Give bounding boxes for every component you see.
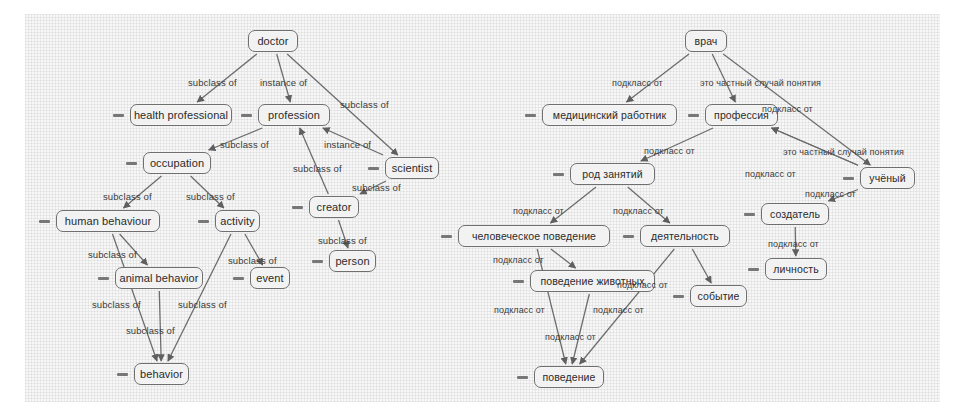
edge-label-uchenyy-to-sozdatel: подкласс от [805, 190, 856, 199]
edge-label-professiya-to-rod_zanyatiy: подкласс от [644, 147, 695, 156]
edge-label-chelovecheskoe_povedenie-to-povedenie: подкласс от [494, 306, 545, 315]
graph-node-lichnost[interactable]: личность [765, 258, 827, 280]
node-collapse-dash[interactable] [241, 114, 252, 117]
graph-node-povedenie[interactable]: поведение [534, 366, 604, 388]
graph-node-scientist[interactable]: scientist [385, 157, 439, 179]
graph-node-human_behaviour[interactable]: human behaviour [56, 210, 160, 232]
edge-label-human_behaviour-to-animal_behavior: subclass of [88, 250, 137, 260]
graph-node-person[interactable]: person [329, 250, 376, 272]
graph-node-uchenyy[interactable]: учёный [860, 167, 915, 189]
node-collapse-dash[interactable] [312, 260, 323, 263]
graph-node-sozdatel[interactable]: создатель [761, 203, 829, 225]
node-collapse-dash[interactable] [513, 280, 524, 283]
edge-label-occupation-to-activity: subclass of [186, 192, 235, 202]
graph-node-health_professional[interactable]: health professional [130, 104, 232, 126]
edge-label-doctor-to-scientist: subclass of [340, 100, 389, 110]
edge-label-activity-to-behavior: subclass of [126, 326, 175, 336]
edge-activity-to-behavior [168, 234, 231, 361]
edge-label-povedenie_zhivotnyh-to-povedenie: подкласс от [593, 306, 644, 315]
edge-label-activity-to-event: subclass of [228, 256, 277, 266]
graph-node-occupation[interactable]: occupation [143, 152, 211, 174]
node-collapse-dash[interactable] [117, 373, 128, 376]
graph-node-profession[interactable]: profession [258, 104, 330, 126]
graph-node-doctor[interactable]: doctor [248, 30, 298, 52]
graph-node-activity[interactable]: activity [215, 210, 260, 232]
edge-chelovecheskoe_povedenie-to-povedenie_zhivotnyh [551, 249, 576, 268]
edge-label-scientist-to-creator: subclass of [352, 183, 401, 193]
edge-label-doctor-to-profession: instance of [260, 78, 307, 88]
edge-label-human_behaviour-to-behavior: subclass of [92, 300, 141, 310]
edge-professiya-to-rod_zanyatiy [641, 128, 713, 161]
node-collapse-dash[interactable] [688, 114, 699, 117]
edge-deyatelnost-to-sobytie [692, 249, 711, 283]
graph-node-vrach[interactable]: врач [685, 30, 727, 52]
node-collapse-dash[interactable] [553, 173, 564, 176]
edge-label-deyatelnost-to-povedenie: подкласс от [545, 333, 596, 342]
edge-label-chelovecheskoe_povedenie-to-povedenie_zhivotnyh: подкласс от [493, 256, 544, 265]
node-collapse-dash[interactable] [39, 220, 50, 223]
edge-label-rod_zanyatiy-to-deyatelnost: подкласс от [613, 207, 664, 216]
edge-rod_zanyatiy-to-chelovecheskoe_povedenie [551, 187, 597, 223]
edge-creator-to-profession [300, 128, 329, 194]
node-collapse-dash[interactable] [744, 213, 755, 216]
graph-node-deyatelnost[interactable]: деятельность [640, 225, 730, 247]
edge-label-vrach-to-medrabotnik: подкласс от [612, 79, 663, 88]
edge-label-uchenyy-to-professiya: подкласс от [745, 170, 796, 179]
graph-node-event[interactable]: event [250, 267, 290, 289]
node-collapse-dash[interactable] [292, 206, 303, 209]
edge-label-creator-to-profession: subclass of [293, 164, 342, 174]
edge-label-rod_zanyatiy-to-chelovecheskoe_povedenie: подкласс от [513, 207, 564, 216]
edge-label-sozdatel-to-lichnost: подкласс от [768, 240, 819, 249]
node-collapse-dash[interactable] [98, 277, 109, 280]
node-collapse-dash[interactable] [748, 268, 759, 271]
edge-label-profession-to-occupation: subclass of [220, 140, 269, 150]
edge-povedenie_zhivotnyh-to-povedenie [572, 294, 589, 364]
graph-node-chelovecheskoe_povedenie[interactable]: человеческое поведение [458, 225, 610, 247]
node-collapse-dash[interactable] [126, 162, 137, 165]
edge-label-creator-to-person: subclass of [318, 236, 367, 246]
node-collapse-dash[interactable] [517, 376, 528, 379]
graph-node-medrabotnik[interactable]: медицинский работник [542, 104, 677, 126]
node-collapse-dash[interactable] [368, 167, 379, 170]
edge-label-vrach-to-professiya: это частный случай понятия [700, 79, 821, 88]
edge-label-doctor-to-health_professional: subclass of [188, 78, 237, 88]
edge-label-scientist-to-profession: instance of [324, 140, 371, 150]
node-collapse-dash[interactable] [441, 235, 452, 238]
node-collapse-dash[interactable] [198, 220, 209, 223]
edge-label-uchenyy-to-professiya: это частный случай понятия [783, 148, 904, 157]
node-collapse-dash[interactable] [673, 295, 684, 298]
graph-node-animal_behavior[interactable]: animal behavior [115, 267, 203, 289]
graph-node-behavior[interactable]: behavior [134, 363, 189, 385]
node-collapse-dash[interactable] [113, 114, 124, 117]
node-collapse-dash[interactable] [233, 277, 244, 280]
graph-node-rod_zanyatiy[interactable]: род занятий [570, 163, 655, 185]
node-collapse-dash[interactable] [525, 114, 536, 117]
edge-label-animal_behavior-to-behavior: subclass of [178, 300, 227, 310]
edge-rod_zanyatiy-to-deyatelnost [628, 187, 670, 223]
edge-label-occupation-to-human_behaviour: subclass of [103, 192, 152, 202]
node-collapse-dash[interactable] [843, 177, 854, 180]
edge-label-deyatelnost-to-sobytie: подкласс от [617, 281, 668, 290]
node-collapse-dash[interactable] [623, 235, 634, 238]
graph-node-sobytie[interactable]: событие [690, 285, 747, 307]
graph-node-creator[interactable]: creator [309, 196, 359, 218]
edge-label-vrach-to-uchenyy: подкласс от [762, 105, 813, 114]
diagram-canvas: doctorhealth professionalprofessionoccup… [0, 0, 965, 415]
